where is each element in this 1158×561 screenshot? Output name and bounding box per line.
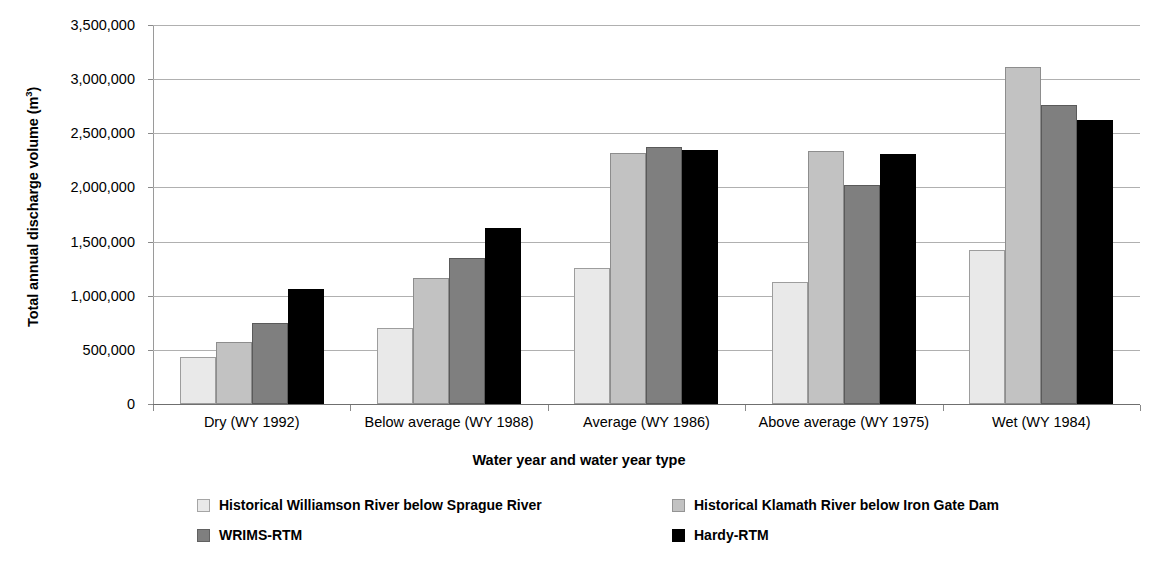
x-axis-category-label: Average (WY 1986) — [548, 414, 745, 430]
bar[interactable] — [449, 258, 485, 404]
bar-group — [745, 25, 942, 404]
bar-group — [153, 25, 350, 404]
bar[interactable] — [610, 153, 646, 404]
y-axis-tick-label: 0 — [127, 396, 135, 412]
x-axis-category-label: Dry (WY 1992) — [153, 414, 350, 430]
bar[interactable] — [1041, 105, 1077, 404]
legend-item-wrims-rtm[interactable]: WRIMS-RTM — [197, 527, 302, 543]
x-axis-group-tick — [548, 405, 549, 411]
y-axis-tick-label: 1,500,000 — [70, 234, 135, 250]
y-axis-tick-label: 3,500,000 — [70, 17, 135, 33]
bar[interactable] — [574, 268, 610, 404]
x-axis-category-label: Wet (WY 1984) — [943, 414, 1140, 430]
x-axis-group-tick — [745, 405, 746, 411]
y-axis-tick-label: 2,500,000 — [70, 125, 135, 141]
x-axis-title: Water year and water year type — [0, 452, 1158, 468]
legend-item-klamath[interactable]: Historical Klamath River below Iron Gate… — [672, 497, 999, 513]
y-axis-tick-labels: 3,500,0003,000,0002,500,0002,000,0001,50… — [0, 25, 145, 406]
bar-group — [943, 25, 1140, 404]
plot-area — [153, 25, 1140, 405]
legend: Historical Williamson River below Spragu… — [0, 495, 1158, 555]
bar[interactable] — [880, 154, 916, 404]
bar-group — [548, 25, 745, 404]
bar-chart: Total annual discharge volume (m3) 3,500… — [0, 0, 1158, 561]
bar[interactable] — [646, 147, 682, 404]
x-axis-end-tick — [1140, 405, 1141, 411]
x-axis-group-tick — [350, 405, 351, 411]
bar[interactable] — [288, 289, 324, 404]
legend-label: Hardy-RTM — [694, 527, 769, 543]
bar[interactable] — [252, 323, 288, 404]
bar[interactable] — [844, 185, 880, 404]
legend-swatch-icon — [672, 529, 685, 542]
bar[interactable] — [216, 342, 252, 404]
legend-label: WRIMS-RTM — [219, 527, 302, 543]
x-axis-category-label: Above average (WY 1975) — [745, 414, 942, 430]
bar[interactable] — [377, 328, 413, 404]
x-axis-end-tick — [153, 405, 154, 411]
bar[interactable] — [485, 228, 521, 405]
bar[interactable] — [413, 278, 449, 404]
legend-item-williamson[interactable]: Historical Williamson River below Spragu… — [197, 497, 542, 513]
x-axis-line — [153, 404, 1140, 405]
legend-swatch-icon — [197, 499, 210, 512]
legend-swatch-icon — [672, 499, 685, 512]
legend-swatch-icon — [197, 529, 210, 542]
x-axis-category-label: Below average (WY 1988) — [350, 414, 547, 430]
legend-label: Historical Klamath River below Iron Gate… — [694, 497, 999, 513]
bar-group — [350, 25, 547, 404]
bar[interactable] — [1077, 120, 1113, 404]
bar[interactable] — [682, 150, 718, 404]
y-axis-tick-label: 1,000,000 — [70, 288, 135, 304]
bar[interactable] — [772, 282, 808, 404]
bar[interactable] — [180, 357, 216, 404]
legend-item-hardy-rtm[interactable]: Hardy-RTM — [672, 527, 769, 543]
y-axis-tick-label: 3,000,000 — [70, 71, 135, 87]
legend-label: Historical Williamson River below Spragu… — [219, 497, 542, 513]
bar[interactable] — [969, 250, 1005, 404]
x-axis-group-tick — [943, 405, 944, 411]
bar[interactable] — [1005, 67, 1041, 404]
bar[interactable] — [808, 151, 844, 404]
y-axis-tick-label: 2,000,000 — [70, 179, 135, 195]
y-axis-tick-label: 500,000 — [83, 342, 135, 358]
